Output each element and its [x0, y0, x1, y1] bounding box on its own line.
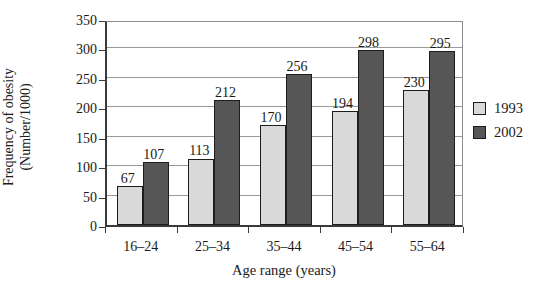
- y-tick-label: 200: [63, 102, 97, 116]
- y-axis-title-line1: Frequency of obesity: [1, 68, 16, 186]
- x-tick-mark: [105, 227, 106, 233]
- y-tick-mark: [99, 50, 105, 51]
- x-tick-mark: [391, 227, 392, 233]
- legend-swatch: [473, 126, 486, 139]
- x-category-label: 25–34: [176, 239, 248, 255]
- bar-chart-figure: Frequency of obesity (Number/1000) 05010…: [0, 0, 541, 299]
- bar-value-label: 298: [339, 35, 399, 50]
- bar-1993: [188, 159, 214, 226]
- bar-1993: [260, 125, 286, 225]
- bar-value-label: 230: [384, 75, 444, 90]
- y-tick-mark: [99, 80, 105, 81]
- bar-value-label: 256: [267, 59, 327, 74]
- x-tick-mark: [177, 227, 178, 233]
- bar-value-label: 212: [195, 85, 255, 100]
- y-tick-label: 300: [63, 43, 97, 57]
- y-axis-title: Frequency of obesity (Number/1000): [0, 32, 34, 222]
- legend: 19932002: [473, 101, 523, 149]
- x-category-label: 45–54: [320, 239, 392, 255]
- x-tick-mark: [463, 227, 464, 233]
- y-tick-mark: [99, 21, 105, 22]
- y-axis-title-line2: (Number/1000): [18, 83, 33, 170]
- y-tick-mark: [99, 139, 105, 140]
- y-tick-mark: [99, 109, 105, 110]
- bar-value-label: 295: [410, 36, 470, 51]
- bar-value-label: 194: [313, 96, 373, 111]
- y-tick-label: 100: [63, 161, 97, 175]
- bar-value-label: 113: [169, 143, 229, 158]
- y-tick-label: 50: [63, 191, 97, 205]
- bar-1993: [403, 90, 429, 225]
- x-category-label: 35–44: [248, 239, 320, 255]
- y-tick-label: 250: [63, 73, 97, 87]
- x-tick-mark: [248, 227, 249, 233]
- y-tick-label: 0: [63, 220, 97, 234]
- y-tick-label: 150: [63, 132, 97, 146]
- bar-2002: [358, 50, 384, 225]
- bar-1993: [117, 186, 143, 225]
- legend-swatch: [473, 102, 486, 115]
- legend-label: 2002: [494, 125, 523, 140]
- legend-label: 1993: [494, 101, 523, 116]
- bar-1993: [332, 111, 358, 225]
- y-tick-mark: [99, 198, 105, 199]
- y-tick-label: 350: [63, 14, 97, 28]
- x-tick-mark: [320, 227, 321, 233]
- bar-2002: [214, 100, 240, 225]
- x-category-label: 55–64: [391, 239, 463, 255]
- bar-value-label: 67: [98, 171, 158, 186]
- x-category-label: 16–24: [105, 239, 177, 255]
- legend-item: 2002: [473, 125, 523, 140]
- x-axis-title: Age range (years): [105, 262, 463, 279]
- gridline: [107, 47, 462, 48]
- legend-item: 1993: [473, 101, 523, 116]
- bar-value-label: 170: [241, 110, 301, 125]
- bar-2002: [286, 74, 312, 225]
- y-tick-mark: [99, 168, 105, 169]
